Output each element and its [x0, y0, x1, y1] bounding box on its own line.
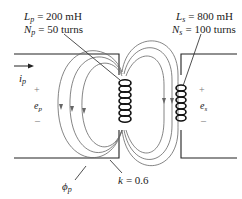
primary-current-label: ip	[19, 72, 26, 86]
primary-plus-sign: +	[34, 84, 40, 95]
coupling-coefficient-label: k= 0.6	[118, 174, 149, 186]
secondary-voltage-label: es	[200, 100, 207, 113]
secondary-inductance-label: Ls= 800 mH	[175, 10, 233, 24]
mutual-inductance-diagram: Lp= 200 mH Np= 50 turns ip + ep – Ls= 80…	[0, 0, 242, 199]
primary-voltage-label: ep	[34, 100, 42, 113]
primary-turns-label: Np= 50 turns	[23, 23, 83, 37]
flux-label: ϕp	[62, 180, 72, 194]
primary-minus-sign: –	[34, 115, 41, 126]
primary-wires	[14, 54, 119, 158]
secondary-coil	[176, 85, 186, 121]
secondary-plus-sign: +	[199, 84, 205, 95]
flux-lines	[58, 41, 178, 166]
current-arrow-icon	[14, 64, 34, 69]
primary-coil	[119, 80, 131, 122]
secondary-minus-sign: –	[200, 115, 207, 126]
primary-inductance-label: Lp= 200 mH	[23, 10, 82, 24]
secondary-turns-label: Ns= 100 turns	[171, 23, 236, 37]
secondary-wires	[181, 54, 237, 158]
